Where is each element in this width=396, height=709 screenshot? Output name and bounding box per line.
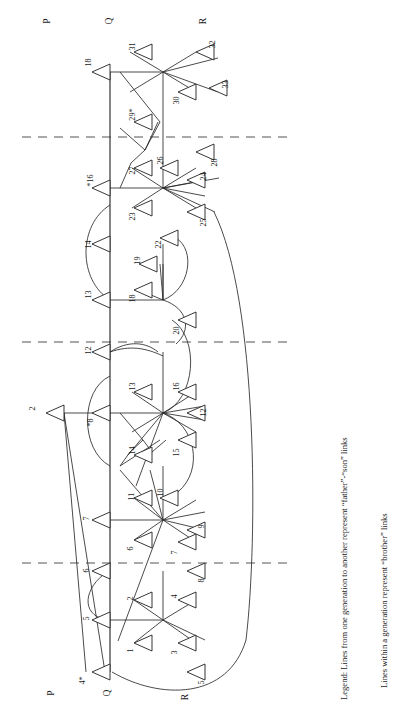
node-q2 <box>134 592 152 608</box>
node-r20 <box>178 312 196 328</box>
node-label-p13: 13 <box>84 290 93 298</box>
node-label-q1: 1 <box>126 648 135 652</box>
node-markers <box>46 44 227 680</box>
legend-line-2: Lines within a generation represent “bro… <box>378 437 391 700</box>
node-p2 <box>46 405 64 421</box>
node-p18 <box>92 64 110 80</box>
node-label-p16: *16 <box>86 174 95 186</box>
node-q19 <box>139 256 157 272</box>
node-r8 <box>187 563 205 579</box>
node-label-q11: 11 <box>127 493 136 501</box>
node-label-r7: 7 <box>170 550 179 554</box>
node-label-r12: 12 <box>199 408 208 416</box>
node-q13 <box>134 384 152 400</box>
node-label-r33: 33 <box>221 80 230 88</box>
node-q22 <box>160 230 178 246</box>
node-label-q27: 27 <box>128 166 137 174</box>
node-label-r16: 16 <box>172 382 181 390</box>
row-label-top-P: P <box>42 18 52 23</box>
node-label-r9: 9 <box>197 524 206 528</box>
node-label-q10: 10 <box>156 488 165 496</box>
node-label-r20: 20 <box>172 326 181 334</box>
node-label-q29: 29* <box>128 108 137 120</box>
link-lines <box>64 52 253 690</box>
node-p5 <box>92 612 110 628</box>
row-label-top-R: R <box>198 18 208 24</box>
node-label-p18: 18 <box>84 58 93 66</box>
node-label-r8: 8 <box>197 578 206 582</box>
node-label-q2: 2 <box>126 596 135 600</box>
node-p8 <box>92 405 110 421</box>
figure-canvas: .ln{stroke:#2b2b2b;stroke-width:0.85;fil… <box>0 0 396 709</box>
node-r3 <box>178 635 196 651</box>
node-q27 <box>134 160 152 176</box>
node-p12 <box>92 344 110 360</box>
legend-line-1: Legend: Lines from one generation to ano… <box>338 437 351 700</box>
node-label-p8: *8 <box>86 418 95 426</box>
node-p14 <box>92 236 110 252</box>
node-label-q31: 31 <box>128 42 137 50</box>
node-label-p4: 4* <box>78 676 87 684</box>
node-label-q13: 13 <box>128 382 137 390</box>
node-q11 <box>134 490 152 506</box>
node-p16 <box>92 180 110 196</box>
node-label-q6: 6 <box>126 546 135 550</box>
node-label-r32: 32 <box>208 40 217 48</box>
node-q18 <box>134 282 152 298</box>
node-label-p5: 5 <box>82 616 91 620</box>
node-label-q26: 26 <box>156 156 165 164</box>
node-p4 <box>92 664 110 680</box>
node-label-r24: 24 <box>199 172 208 180</box>
node-q31 <box>134 44 152 60</box>
node-q6 <box>134 532 152 548</box>
node-label-q14: 14 <box>128 446 137 454</box>
node-p13 <box>92 292 110 308</box>
node-label-q23: 23 <box>128 212 137 220</box>
node-r5 <box>187 664 205 680</box>
legend-block: Legend: Lines from one generation to ano… <box>312 437 396 700</box>
node-label-p7: 7 <box>82 516 91 520</box>
node-label-r3: 3 <box>170 650 179 654</box>
node-p7 <box>92 512 110 528</box>
node-r15 <box>178 432 196 448</box>
node-label-r25: 25 <box>199 218 208 226</box>
node-label-q18: 18 <box>128 294 137 302</box>
row-label-bottom-Q: Q <box>102 690 112 697</box>
node-label-r15: 15 <box>172 448 181 456</box>
row-label-bottom-P: P <box>46 690 56 695</box>
node-label-q19: 19 <box>133 256 142 264</box>
node-q14 <box>134 447 152 463</box>
node-label-q22: 22 <box>154 240 163 248</box>
row-label-top-Q: Q <box>104 18 114 25</box>
node-label-p2: 2 <box>28 406 37 410</box>
node-q23 <box>134 200 152 216</box>
node-label-r28: 28 <box>210 158 219 166</box>
node-label-r30: 30 <box>172 96 181 104</box>
node-q1 <box>134 635 152 651</box>
node-q29 <box>134 114 152 130</box>
node-label-r5: 5 <box>197 680 206 684</box>
node-label-r4: 4 <box>170 594 179 598</box>
node-label-p6: 6 <box>82 568 91 572</box>
node-label-p14: 14 <box>84 240 93 248</box>
row-label-bottom-R: R <box>180 694 190 700</box>
node-label-p12: 12 <box>84 346 93 354</box>
